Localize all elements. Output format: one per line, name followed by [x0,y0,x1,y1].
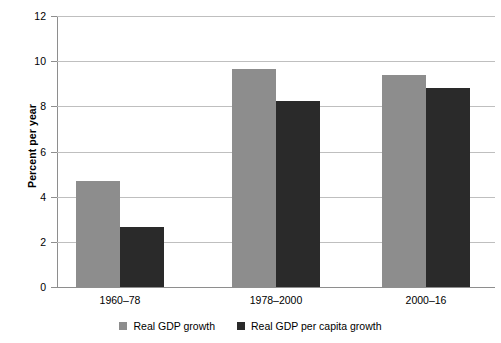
plot-area [57,16,495,287]
y-tick-label-6: 6 [6,147,46,157]
legend-item-gdp-per-capita-growth[interactable]: Real GDP per capita growth [237,320,382,332]
legend-swatch-icon [237,322,245,330]
legend-item-gdp-growth[interactable]: Real GDP growth [119,320,215,332]
chart-legend: Real GDP growthReal GDP per capita growt… [0,320,501,332]
bar-chart: Percent per year 024681012 1960–781978–2… [0,0,501,343]
legend-item-label: Real GDP growth [133,320,215,332]
y-tick-label-8: 8 [6,101,46,111]
y-tick-label-10: 10 [6,56,46,66]
y-tick-label-4: 4 [6,192,46,202]
y-tick-label-12: 12 [6,11,46,21]
x-category-label-2000–16: 2000–16 [382,294,470,306]
bar-gdp-per-capita-growth-2000–16[interactable] [426,88,470,287]
gridline-0 [57,287,495,288]
legend-swatch-icon [119,322,127,330]
y-tick-label-2: 2 [6,237,46,247]
bar-gdp-growth-2000–16[interactable] [382,75,426,287]
x-category-label-1960–78: 1960–78 [76,294,164,306]
bar-group [57,16,495,287]
legend-item-label: Real GDP per capita growth [251,320,382,332]
y-tick-label-0: 0 [6,282,46,292]
x-category-label-1978–2000: 1978–2000 [232,294,320,306]
